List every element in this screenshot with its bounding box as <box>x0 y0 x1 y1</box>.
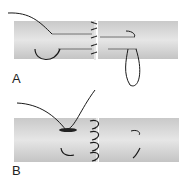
panel-label-a: A <box>12 71 21 86</box>
panel-a-tendon <box>8 13 178 86</box>
panel-b-tendon <box>14 90 179 162</box>
tendon-suture-diagram <box>0 0 187 184</box>
panel-label-b: B <box>12 163 21 178</box>
